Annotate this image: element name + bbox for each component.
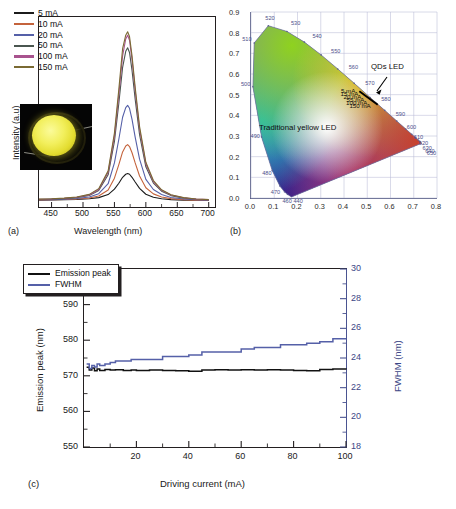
panel-b-xtick-0.1: 0.1 <box>268 202 278 211</box>
panel-a-legend-item: 50 mA <box>14 40 68 51</box>
panel-b-locus-label-650: 650 <box>427 150 436 156</box>
panel-c-right-ytick-24: 24 <box>351 352 361 362</box>
panel-b-annotation-traditional-led: Traditional yellow LED <box>259 123 336 132</box>
panel-c-legend: Emission peakFWHM <box>23 264 119 294</box>
panel-b-locus-label-570: 570 <box>365 80 374 86</box>
panel-b-locus-label-610: 610 <box>414 134 423 140</box>
panel-b-locus-label-560: 560 <box>349 64 358 70</box>
panel-c-right-ytick-28: 28 <box>351 293 361 303</box>
panel-c-legend-label: Emission peak <box>55 268 111 279</box>
panel-c-xtick-20: 20 <box>130 451 140 461</box>
panel-b-xtick-0.7: 0.7 <box>408 202 418 211</box>
panel-b-xtick-0.8: 0.8 <box>431 202 441 211</box>
panel-b-plot-area: 4404604704804905005105205305405505605705… <box>250 12 437 199</box>
panel-a-xtick-700: 700 <box>201 208 215 218</box>
legend-swatch-icon <box>28 284 50 286</box>
panel-b-locus-label-600: 600 <box>407 124 416 130</box>
panel-b-xtick-0.0: 0.0 <box>245 202 255 211</box>
inset-led-phosphor <box>32 115 76 156</box>
panel-a-xtick-600: 600 <box>138 208 152 218</box>
figure-container: 450500550600650700 Intensity (a.u) Wavel… <box>0 0 456 509</box>
legend-swatch-icon <box>14 66 34 68</box>
panel-c-plot-area <box>83 268 347 448</box>
panel-c-right-ytick-26: 26 <box>351 322 361 332</box>
panel-a-inset-photo <box>20 104 92 170</box>
panel-a-tick-marks <box>52 202 209 207</box>
panel-b-ytick-0.9: 0.9 <box>229 8 239 17</box>
panel-a-x-axis-title: Wavelength (nm) <box>74 226 142 236</box>
panel-a-legend-label: 50 mA <box>38 40 63 51</box>
legend-swatch-icon <box>14 12 34 14</box>
panel-c-right-ytick-30: 30 <box>351 263 361 273</box>
panel-c-xtick-60: 60 <box>235 451 245 461</box>
panel-b-locus-label-490: 490 <box>251 133 260 139</box>
panel-a-xtick-500: 500 <box>75 208 89 218</box>
panel-b-locus-label-530: 530 <box>291 20 300 26</box>
panel-a-legend: 5 mA10 mA20 mA50 mA100 mA150 mA <box>14 8 68 73</box>
panel-c-legend-label: FWHM <box>55 279 82 290</box>
panel-b-xtick-0.6: 0.6 <box>384 202 394 211</box>
panel-c-legend-item: Emission peak <box>28 268 111 279</box>
panel-a-legend-label: 20 mA <box>38 30 63 41</box>
panel-a-legend-label: 150 mA <box>38 62 68 73</box>
panel-a-xtick-450: 450 <box>43 208 57 218</box>
panel-b-locus-label-500: 500 <box>241 81 250 87</box>
panel-b-ytick-0.0: 0.0 <box>229 194 239 203</box>
panel-b-ytick-0.8: 0.8 <box>229 29 239 38</box>
panel-b-ytick-0.3: 0.3 <box>229 132 239 141</box>
panel-a-legend-item: 150 mA <box>14 62 68 73</box>
panel-c-legend-item: FWHM <box>28 279 111 290</box>
panel-b-qd-led-arrow-shaft <box>377 77 387 91</box>
panel-b-cie-diagram: 4404604704804905005105205305405505605705… <box>228 0 456 245</box>
panel-b-ytick-0.2: 0.2 <box>229 153 239 162</box>
panel-c-right-ytick-18: 18 <box>351 441 361 451</box>
legend-swatch-icon <box>14 45 34 47</box>
panel-b-locus-label-550: 550 <box>331 48 340 54</box>
panel-b-locus-label-480: 480 <box>262 170 271 176</box>
panel-b-locus-label-470: 470 <box>271 189 280 195</box>
panel-b-current-label-150-mA: 150 mA <box>329 102 371 109</box>
legend-swatch-icon <box>14 55 34 57</box>
panel-c-tick-marks <box>84 269 346 447</box>
legend-swatch-icon <box>28 273 50 275</box>
panel-a-legend-item: 5 mA <box>14 8 68 19</box>
panel-b-ytick-0.4: 0.4 <box>229 111 239 120</box>
panel-c-left-ytick-590: 590 <box>48 299 78 309</box>
panel-b-locus-label-520: 520 <box>265 15 274 21</box>
panel-c-xtick-40: 40 <box>183 451 193 461</box>
panel-b-qd-led-arrow-head <box>376 89 382 94</box>
panel-c-right-ytick-20: 20 <box>351 411 361 421</box>
panel-c-left-ytick-570: 570 <box>48 370 78 380</box>
panel-a-tag: (a) <box>8 226 19 236</box>
panel-a-legend-item: 100 mA <box>14 51 68 62</box>
panel-b-tag: (b) <box>230 226 241 236</box>
panel-a-legend-item: 20 mA <box>14 30 68 41</box>
panel-a-legend-label: 100 mA <box>38 51 68 62</box>
panel-b-locus-label-580: 580 <box>381 96 390 102</box>
legend-swatch-icon <box>14 23 34 25</box>
panel-a-emission-spectra: 450500550600650700 Intensity (a.u) Wavel… <box>0 0 228 245</box>
panel-b-xtick-0.3: 0.3 <box>315 202 325 211</box>
panel-c-tag: (c) <box>28 478 39 489</box>
panel-b-ytick-0.1: 0.1 <box>229 173 239 182</box>
panel-b-xtick-0.5: 0.5 <box>361 202 371 211</box>
panel-b-annotation-qds-led: QDs LED <box>371 62 404 71</box>
panel-c-xtick-80: 80 <box>288 451 298 461</box>
panel-c-xtick-100: 100 <box>337 451 352 461</box>
panel-c-emission-peak-curve <box>87 367 346 371</box>
panel-a-legend-label: 5 mA <box>38 8 58 19</box>
panel-b-locus-label-510: 510 <box>242 36 251 42</box>
panel-b-locus-label-590: 590 <box>396 111 405 117</box>
panel-a-x-tick-labels: 450500550600650700 <box>38 208 214 222</box>
panel-c-right-ytick-22: 22 <box>351 382 361 392</box>
legend-swatch-icon <box>14 34 34 36</box>
panel-b-ytick-0.5: 0.5 <box>229 91 239 100</box>
panel-c-left-ytick-550: 550 <box>48 441 78 451</box>
panel-b-locus-label-540: 540 <box>312 33 321 39</box>
panel-b-xtick-0.4: 0.4 <box>338 202 348 211</box>
panel-b-ytick-0.7: 0.7 <box>229 49 239 58</box>
panel-c-svg <box>84 269 346 447</box>
panel-a-xtick-650: 650 <box>169 208 183 218</box>
panel-c-x-axis-title: Driving current (mA) <box>160 478 245 489</box>
panel-b-ytick-0.6: 0.6 <box>229 70 239 79</box>
